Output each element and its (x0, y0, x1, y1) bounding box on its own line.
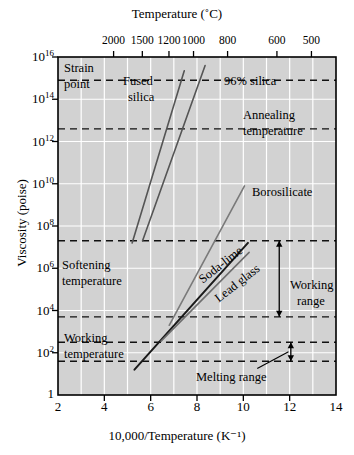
top-tick-label-500: 500 (293, 34, 329, 46)
working-range-label-line2: range (297, 294, 325, 309)
y-tick-label-10e12: 1012 (12, 133, 54, 150)
y-tick-label-10e2: 102 (12, 344, 54, 361)
y-tick-label-10e14: 1014 (12, 90, 54, 107)
y-tick-label-1: 1 (12, 386, 54, 402)
melting-range-label: Melting range (196, 370, 266, 385)
viscosity-temperature-chart: Temperature (˚C) 10,000/Temperature (K⁻¹… (0, 0, 354, 455)
bottom-tick-label-12: 12 (272, 399, 308, 415)
working-temperature-label-line2: temperature (64, 347, 124, 362)
bottom-tick-label-14: 14 (318, 399, 354, 415)
series-label-borosilicate: Borosilicate (252, 185, 312, 200)
top-tick-label-800: 800 (210, 34, 246, 46)
softening-temperature-label-line2: temperature (62, 274, 122, 289)
y-tick-label-10e8: 108 (12, 217, 54, 234)
y-tick-label-10e4: 104 (12, 302, 54, 319)
annealing-temperature-label-line2: temperature (243, 124, 303, 139)
top-tick-label-600: 600 (259, 34, 295, 46)
working-temperature-label-line1: Working (64, 331, 107, 346)
series-label-fused-silica-line2: silica (128, 90, 154, 105)
series-label-fused-silica-line1: Fused (123, 74, 153, 89)
y-tick-label-10e10: 1010 (12, 175, 54, 192)
top-tick-label-1000: 1000 (176, 34, 212, 46)
series-label-96-silica: 96% silica (224, 74, 276, 89)
annealing-temperature-label-line1: Annealing (243, 108, 295, 123)
strain-point-label-line1: Strain (64, 61, 94, 76)
working-range-label-line1: Working (290, 278, 333, 293)
y-tick-label-10e6: 106 (12, 259, 54, 276)
strain-point-label-line2: point (64, 77, 90, 92)
bottom-tick-label-4: 4 (86, 399, 122, 415)
bottom-tick-label-6: 6 (133, 399, 169, 415)
softening-temperature-label-line1: Softening (62, 258, 111, 273)
bottom-tick-label-8: 8 (179, 399, 215, 415)
y-tick-label-10e16: 1016 (12, 48, 54, 65)
bottom-tick-label-10: 10 (225, 399, 261, 415)
